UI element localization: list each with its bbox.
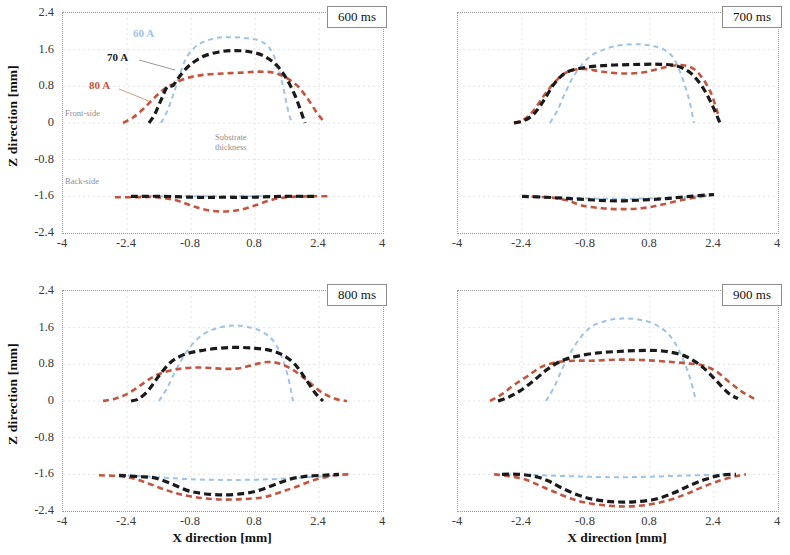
y-tick-label: -0.8 (34, 429, 54, 444)
legend-leader-lines (119, 60, 175, 101)
curve-70a-front (149, 51, 305, 123)
series-label-60a: 60 A (133, 27, 154, 39)
time-badge-600ms: 600 ms (327, 6, 387, 28)
x-axis-ticks: -4-2.4-0.80.82.44 (457, 514, 777, 530)
y-tick-label: 0.8 (38, 78, 54, 93)
y-axis-ticks: 2.41.60.80-0.8-1.6-2.4 (20, 284, 56, 510)
x-tick-label: -2.4 (511, 236, 531, 251)
x-tick-label: 0.8 (641, 236, 657, 251)
y-tick-label: -2.4 (34, 225, 54, 240)
x-tick-label: -2.4 (116, 236, 136, 251)
y-tick-label: -0.8 (34, 151, 54, 166)
x-tick-label: 4 (379, 236, 385, 251)
x-axis-ticks: -4-2.4-0.80.82.44 (62, 236, 382, 252)
curve-80a-back (99, 474, 351, 499)
y-tick-label: 1.6 (38, 41, 54, 56)
y-tick-label: -1.6 (34, 188, 54, 203)
curve-80a-front (514, 65, 718, 123)
curve-80a-front (490, 360, 754, 401)
series-label-70a: 70 A (107, 51, 128, 63)
x-tick-label: 2.4 (705, 236, 721, 251)
x-tick-label: -0.8 (180, 514, 200, 529)
y-tick-label: 0 (48, 115, 54, 130)
x-tick-label: 2.4 (310, 514, 326, 529)
plot-area-700ms (457, 12, 779, 234)
gridlines (63, 291, 383, 511)
panel-800ms: Z direction [mm] 2.41.60.80-0.8-1.6-2.4 … (0, 278, 395, 555)
y-tick-label: 2.4 (38, 283, 54, 298)
x-tick-label: -4 (452, 514, 462, 529)
plot-svg-900ms (458, 291, 778, 511)
time-badge-900ms: 900 ms (722, 284, 782, 306)
time-badge-800ms: 800 ms (327, 284, 387, 306)
x-tick-label: 4 (774, 236, 780, 251)
x-axis-label: X direction [mm] (62, 530, 382, 546)
curve-80a-front (103, 362, 347, 401)
series-label-80a: 80 A (89, 79, 110, 91)
x-tick-label: -0.8 (180, 236, 200, 251)
curve-70a-back (131, 196, 315, 197)
x-tick-label: -4 (452, 236, 462, 251)
plot-svg-700ms (458, 13, 778, 233)
y-tick-label: 2.4 (38, 5, 54, 20)
panel-900ms: 900 ms -4-2.4-0.80.82.44 X direction [mm… (395, 278, 790, 555)
plot-area-600ms: Front-side Back-side Substrate thickness… (62, 12, 384, 234)
x-tick-label: 2.4 (310, 236, 326, 251)
x-axis-label: X direction [mm] (457, 530, 777, 546)
x-tick-label: -0.8 (575, 514, 595, 529)
x-tick-label: 4 (379, 514, 385, 529)
y-tick-label: 1.6 (38, 319, 54, 334)
plot-area-900ms (457, 290, 779, 512)
weld-profile-figure: Z direction [mm] 2.41.60.80-0.8-1.6-2.4 … (0, 0, 790, 555)
plot-svg-800ms (63, 291, 383, 511)
curve-60a-front (550, 44, 694, 123)
panel-700ms: 700 ms -4-2.4-0.80.82.44 (395, 0, 790, 278)
plot-svg-600ms (63, 13, 383, 233)
x-tick-label: 0.8 (246, 514, 262, 529)
x-axis-ticks: -4-2.4-0.80.82.44 (457, 236, 777, 252)
curve-70a-front (498, 350, 738, 401)
curve-60a-front (159, 325, 293, 401)
x-tick-label: -2.4 (116, 514, 136, 529)
x-tick-label: -4 (57, 236, 67, 251)
x-tick-label: 0.8 (641, 514, 657, 529)
time-badge-700ms: 700 ms (722, 6, 782, 28)
y-tick-label: 0 (48, 393, 54, 408)
x-tick-label: -0.8 (575, 236, 595, 251)
x-axis-ticks: -4-2.4-0.80.82.44 (62, 514, 382, 530)
x-tick-label: 4 (774, 514, 780, 529)
y-axis-ticks: 2.41.60.80-0.8-1.6-2.4 (20, 6, 56, 232)
y-tick-label: -2.4 (34, 503, 54, 518)
y-tick-label: -1.6 (34, 466, 54, 481)
panel-600ms: Z direction [mm] 2.41.60.80-0.8-1.6-2.4 … (0, 0, 395, 278)
x-tick-label: 2.4 (705, 514, 721, 529)
x-tick-label: -4 (57, 514, 67, 529)
x-tick-label: -2.4 (511, 514, 531, 529)
x-tick-label: 0.8 (246, 236, 262, 251)
y-tick-label: 0.8 (38, 356, 54, 371)
gridlines (63, 13, 383, 233)
plot-area-800ms (62, 290, 384, 512)
